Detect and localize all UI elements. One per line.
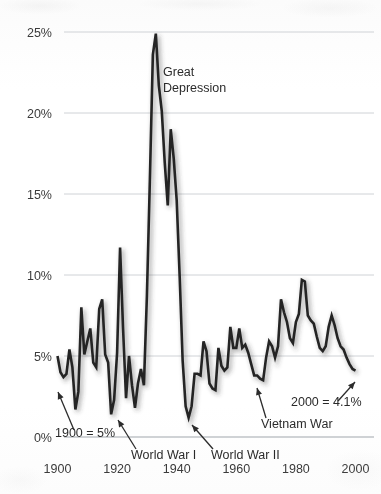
annotation-line: Great [163, 65, 195, 79]
annotation-year-2000-value: 2000 = 4.1% [291, 395, 362, 409]
y-axis-tick-labels: 0%5%10%15%20%25% [27, 26, 52, 445]
annotations-group: GreatDepression1900 = 5%World War IWorld… [55, 65, 362, 462]
x-tick-label: 2000 [342, 462, 370, 476]
x-tick-label: 1960 [222, 462, 250, 476]
annotation-line: Depression [163, 81, 226, 95]
y-tick-label: 10% [27, 269, 52, 283]
annotation-vietnam-war: Vietnam War [261, 417, 333, 431]
y-tick-label: 15% [27, 188, 52, 202]
annotation-great-depression: GreatDepression [163, 65, 226, 95]
x-tick-label: 1920 [103, 462, 131, 476]
x-tick-label: 1940 [163, 462, 191, 476]
annotation-year-1900-value: 1900 = 5% [55, 426, 115, 440]
y-tick-label: 0% [34, 431, 52, 445]
annotation-world-war-i: World War I [131, 448, 196, 462]
y-tick-label: 5% [34, 350, 52, 364]
annotation-arrowhead-world-war-i [118, 420, 124, 428]
chart-container: 0%5%10%15%20%25% 19001920194019601980200… [0, 0, 381, 494]
x-axis-tick-labels: 190019201940196019802000 [44, 462, 370, 476]
y-tick-label: 25% [27, 26, 52, 40]
annotation-world-war-ii: World War II [211, 448, 280, 462]
x-tick-label: 1900 [44, 462, 72, 476]
y-tick-label: 20% [27, 107, 52, 121]
annotation-arrowhead-vietnam-war [256, 388, 262, 396]
unemployment-line-chart: 0%5%10%15%20%25% 19001920194019601980200… [0, 0, 381, 494]
x-tick-label: 1980 [282, 462, 310, 476]
